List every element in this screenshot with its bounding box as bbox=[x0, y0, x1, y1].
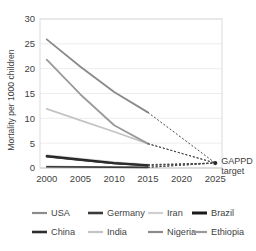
x-tick-label: 2010 bbox=[104, 173, 125, 184]
legend-label-ethiopia: Ethiopia bbox=[211, 227, 245, 237]
y-tick-label: 10 bbox=[24, 113, 35, 124]
legend-label-india: India bbox=[107, 227, 128, 237]
x-tick-label: 2015 bbox=[137, 173, 158, 184]
gappd-target-label-line2: target bbox=[221, 166, 245, 176]
x-tick-label: 2005 bbox=[70, 173, 91, 184]
legend-label-iran: Iran bbox=[167, 208, 183, 218]
legend-label-usa: USA bbox=[51, 208, 71, 218]
y-axis-title: Mortality per 1000 children bbox=[6, 49, 16, 150]
legend-label-brazil: Brazil bbox=[211, 208, 234, 218]
x-tick-label: 2000 bbox=[36, 173, 57, 184]
legend-label-germany: Germany bbox=[107, 208, 145, 218]
y-tick-label: 5 bbox=[30, 138, 35, 149]
series-line-germany bbox=[47, 167, 148, 168]
mortality-line-chart: 051015202530 200020052010201520202025 GA… bbox=[0, 0, 256, 251]
chart-figure: 051015202530 200020052010201520202025 GA… bbox=[0, 0, 256, 251]
y-tick-label: 30 bbox=[24, 13, 35, 24]
y-tick-label: 25 bbox=[24, 38, 35, 49]
gappd-target-label-line1: GAPPD bbox=[221, 156, 253, 166]
y-tick-label: 15 bbox=[24, 88, 35, 99]
legend-label-china: China bbox=[51, 227, 76, 237]
y-tick-label: 0 bbox=[30, 162, 35, 173]
y-tick-label: 20 bbox=[24, 63, 35, 74]
target-marker bbox=[213, 161, 217, 165]
gappd-target-point bbox=[213, 161, 217, 165]
x-tick-label: 2020 bbox=[171, 173, 192, 184]
